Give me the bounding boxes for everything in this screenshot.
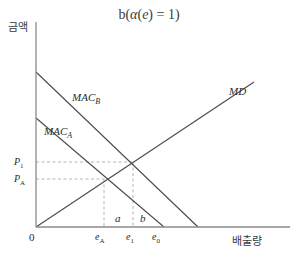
x-tick-label-ea: eA [95, 232, 105, 245]
y-tick-pa-sub: A [20, 179, 25, 187]
region-label-b: b [140, 213, 146, 224]
x-tick-label-e1: e1 [126, 232, 134, 245]
curve-label-mac-b-base: MAC [72, 91, 95, 103]
x-axis-title: 배출량 [232, 236, 262, 247]
y-axis-title: 금액 [8, 22, 28, 33]
x-tick-ea-sub: A [99, 237, 104, 245]
curve-mac-b [36, 72, 198, 227]
chart-title-prefix: b( [118, 7, 130, 22]
curve-label-mac-a-base: MAC [44, 125, 67, 137]
curve-label-mac-a: MACA [44, 126, 72, 140]
curve-label-mac-b: MACB [72, 92, 100, 106]
curve-label-mac-a-sub: A [67, 131, 72, 140]
curve-label-md-base: MD [229, 85, 246, 97]
emissions-chart-figure: b(α(e) = 1) 금액 배출량 0 MACB MACA MD P1 PA … [0, 0, 298, 259]
x-tick-e0-sub: 0 [156, 237, 160, 245]
y-tick-label-p1: P1 [14, 157, 24, 170]
y-tick-label-pa: PA [14, 174, 25, 187]
chart-title: b(α(e) = 1) [0, 8, 298, 22]
curve-label-mac-b-sub: B [95, 97, 100, 106]
region-label-a: a [115, 213, 121, 224]
y-tick-p1-sub: 1 [20, 162, 24, 170]
curve-label-md: MD [229, 86, 246, 97]
x-tick-label-e0: e0 [152, 232, 160, 245]
chart-title-close: ) = 1) [148, 7, 179, 22]
x-tick-e1-sub: 1 [130, 237, 134, 245]
origin-label: 0 [29, 232, 35, 243]
